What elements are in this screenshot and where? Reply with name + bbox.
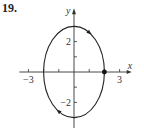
x-tick-label: 3 xyxy=(117,74,122,85)
x-axis-label: x xyxy=(127,60,133,71)
y-tick-label: −2 xyxy=(60,97,71,108)
y-axis-label: y xyxy=(65,5,71,16)
start-point xyxy=(102,70,107,75)
x-tick-label: −3 xyxy=(23,74,34,85)
labels: −332−2xy xyxy=(23,5,133,108)
y-tick-label: 2 xyxy=(66,36,71,47)
y-axis-arrow xyxy=(72,8,76,14)
parametric-plot: −332−2xy xyxy=(0,0,144,128)
